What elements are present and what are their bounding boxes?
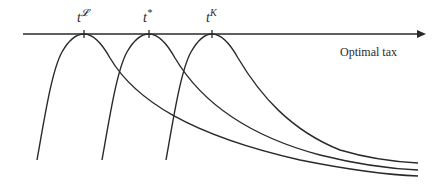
optimal-tax-diagram: t𝓛 t* tK Optimal tax [0,0,442,189]
axis-label: Optimal tax [340,45,397,59]
tick-label-right: tK [206,7,218,25]
tick-label-left: t𝓛 [77,7,91,25]
tick-label-middle: t* [143,7,152,25]
axis-arrow-icon [417,30,426,38]
